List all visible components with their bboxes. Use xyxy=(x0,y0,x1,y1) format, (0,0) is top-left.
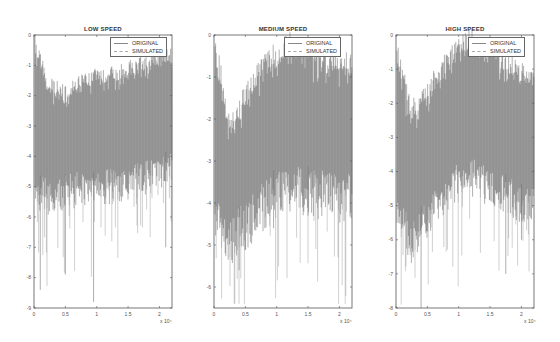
y-tick-label: 0 xyxy=(28,32,31,38)
y-tick-label: -9 xyxy=(27,305,32,311)
y-tick-label: -5 xyxy=(207,242,212,248)
legend-label-simulated: SIMULATED xyxy=(490,47,521,55)
y-tick-label: -4 xyxy=(207,200,212,206)
y-tick-label: -2 xyxy=(207,116,212,122)
x-tick-label: 1 xyxy=(95,311,98,317)
x-tick-label: 0.5 xyxy=(424,311,431,317)
plot-area: 0-1-2-3-4-5-6-7-800.511.52 xyxy=(362,0,560,342)
y-tick-label: -2 xyxy=(27,92,32,98)
x-tick-label: 1 xyxy=(457,311,460,317)
x-tick-label: 1.5 xyxy=(305,311,312,317)
x-tick-label: 0 xyxy=(33,311,36,317)
y-tick-label: -6 xyxy=(27,214,32,220)
y-tick-label: -1 xyxy=(27,62,32,68)
x-tick-label: 0 xyxy=(213,311,216,317)
legend: ORIGINAL SIMULATED xyxy=(468,37,525,57)
plot-area: 0-1-2-3-4-5-600.511.52 xyxy=(180,0,370,342)
x-tick-label: 2 xyxy=(338,311,341,317)
y-tick-label: -1 xyxy=(389,66,394,72)
y-tick-label: -7 xyxy=(27,244,32,250)
y-tick-label: -5 xyxy=(389,202,394,208)
legend-swatch-original xyxy=(288,43,302,44)
legend-label-simulated: SIMULATED xyxy=(306,47,337,55)
x-tick-label: 0.5 xyxy=(242,311,249,317)
x-tick-label: 0.5 xyxy=(62,311,69,317)
x-tick-label: 1.5 xyxy=(125,311,132,317)
legend: ORIGINAL SIMULATED xyxy=(284,37,341,57)
y-tick-label: -8 xyxy=(389,305,394,311)
trace-original xyxy=(397,29,534,263)
x-exponent-label: x 10⁴ xyxy=(524,318,536,324)
y-tick-label: -3 xyxy=(389,134,394,140)
y-tick-label: -1 xyxy=(207,74,212,80)
x-tick-label: 0 xyxy=(395,311,398,317)
legend-label-original: ORIGINAL xyxy=(490,39,516,47)
y-tick-label: 0 xyxy=(390,32,393,38)
y-tick-label: -8 xyxy=(27,274,32,280)
panel-high-speed: HIGH SPEED 0-1-2-3-4-5-6-7-800.511.52 OR… xyxy=(362,0,560,342)
y-tick-label: -3 xyxy=(207,158,212,164)
x-tick-label: 2 xyxy=(158,311,161,317)
x-exponent-label: x 10⁴ xyxy=(160,318,172,324)
legend-swatch-simulated xyxy=(472,51,486,52)
legend-swatch-simulated xyxy=(288,51,302,52)
panel-medium-speed: MEDIUM SPEED 0-1-2-3-4-5-600.511.52 ORIG… xyxy=(180,0,370,342)
trace-original xyxy=(35,35,172,214)
legend: ORIGINAL SIMULATED xyxy=(110,37,167,57)
y-tick-label: -3 xyxy=(27,123,32,129)
legend-label-original: ORIGINAL xyxy=(132,39,158,47)
legend-label-simulated: SIMULATED xyxy=(132,47,163,55)
x-exponent-label: x 10⁴ xyxy=(340,318,352,324)
legend-swatch-simulated xyxy=(114,51,128,52)
x-tick-label: 1.5 xyxy=(487,311,494,317)
y-tick-label: -4 xyxy=(27,153,32,159)
y-tick-label: -6 xyxy=(207,284,212,290)
panel-low-speed: LOW SPEED 0-1-2-3-4-5-6-7-8-900.511.52 O… xyxy=(0,0,190,342)
y-tick-label: -7 xyxy=(389,271,394,277)
x-tick-label: 1 xyxy=(275,311,278,317)
y-tick-label: -5 xyxy=(27,183,32,189)
legend-swatch-original xyxy=(114,43,128,44)
legend-label-original: ORIGINAL xyxy=(306,39,332,47)
y-tick-label: 0 xyxy=(208,32,211,38)
y-tick-label: -2 xyxy=(389,100,394,106)
x-tick-label: 2 xyxy=(520,311,523,317)
y-tick-label: -4 xyxy=(389,168,394,174)
legend-swatch-original xyxy=(472,43,486,44)
trace-original xyxy=(215,32,352,263)
y-tick-label: -6 xyxy=(389,236,394,242)
